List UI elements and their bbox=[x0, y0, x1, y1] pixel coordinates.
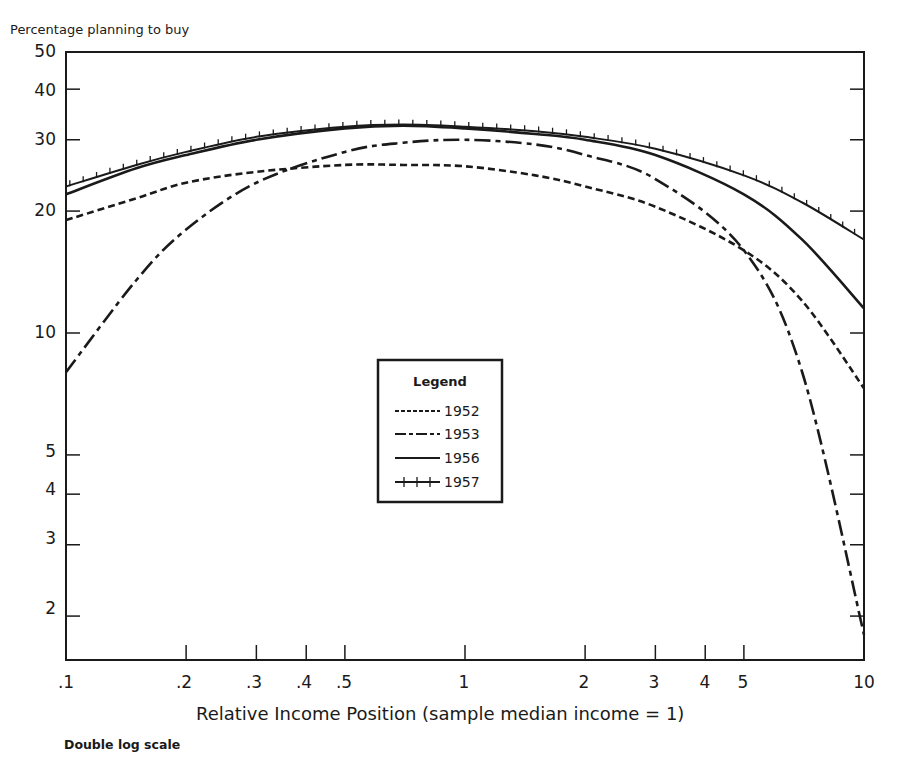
curve-1956 bbox=[66, 126, 864, 309]
legend-label-1952: 1952 bbox=[444, 403, 480, 419]
legend: Legend 1952 1953 1956 1957 bbox=[378, 360, 502, 502]
legend-label-1956: 1956 bbox=[444, 450, 480, 466]
plot-frame bbox=[66, 52, 864, 660]
legend-title: Legend bbox=[413, 374, 467, 389]
plot-area: Legend 1952 1953 1956 1957 bbox=[0, 0, 903, 766]
legend-label-1953: 1953 bbox=[444, 426, 480, 442]
curve-1952 bbox=[66, 164, 864, 388]
legend-label-1957: 1957 bbox=[444, 474, 480, 490]
